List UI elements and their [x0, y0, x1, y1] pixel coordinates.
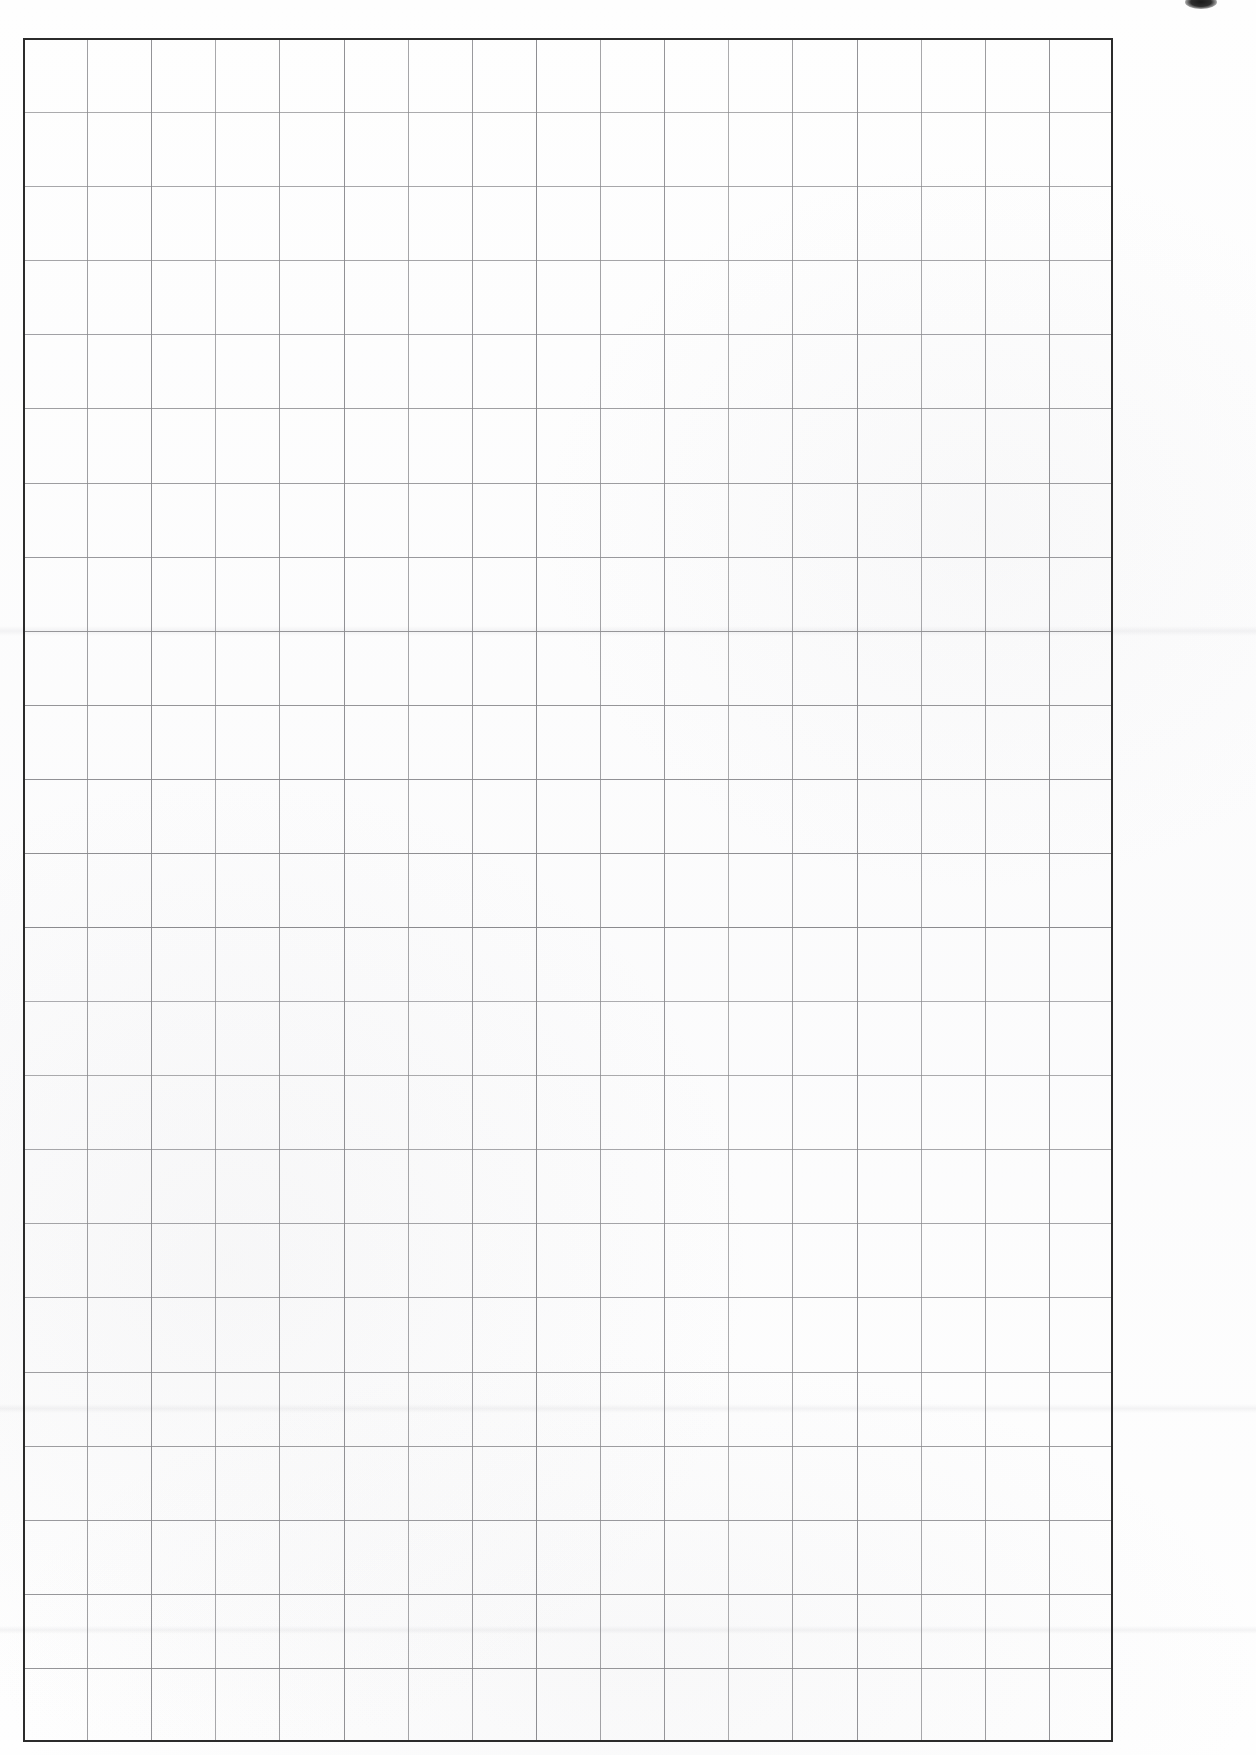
scanned-page [0, 0, 1256, 1755]
top-edge-ink-smudge [1185, 0, 1217, 9]
squared-paper-grid [23, 38, 1113, 1742]
grid-outer-border [23, 38, 1113, 1742]
